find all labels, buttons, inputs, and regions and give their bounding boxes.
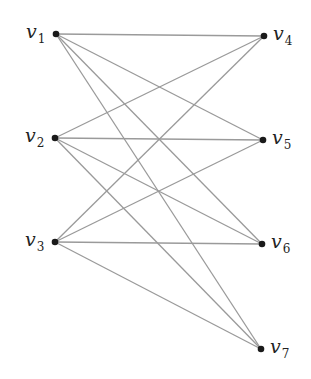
label-v4: v4 (273, 22, 293, 48)
edge-v3-v5 (55, 140, 263, 242)
node-v4 (261, 33, 268, 40)
node-v5 (260, 137, 267, 144)
edge-v3-v7 (55, 242, 261, 349)
node-v1 (53, 31, 60, 38)
node-v3 (52, 239, 59, 246)
label-v6: v6 (271, 230, 290, 256)
node-v6 (259, 241, 266, 248)
label-v3: v3 (25, 228, 44, 254)
label-v2: v2 (25, 124, 44, 150)
label-v7: v7 (270, 335, 289, 361)
node-v2 (52, 135, 59, 142)
edge-v3-v4 (55, 36, 264, 242)
edge-v1-v4 (56, 34, 264, 36)
node-v7 (258, 346, 265, 353)
bipartite-graph: v1v2v3v4v5v6v7 (0, 0, 311, 379)
edges (55, 34, 264, 349)
label-v1: v1 (26, 20, 45, 46)
edge-v2-v4 (55, 36, 264, 138)
label-v5: v5 (272, 126, 291, 152)
